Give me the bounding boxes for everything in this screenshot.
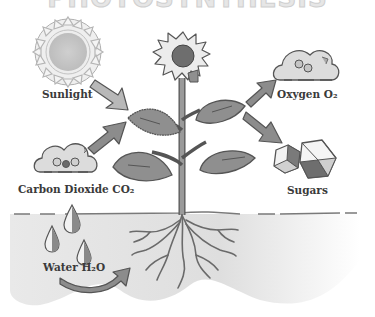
photosynthesis-diagram: PHOTOSYNTHESIS [0,0,375,317]
sugars-arrow-icon [243,112,282,143]
sunlight-label: Sunlight [42,88,93,100]
sunlight-arrow-icon [90,80,128,110]
water-label: Water H₂O [43,261,105,273]
leaf-lower-right [200,151,255,174]
oxygen-label: Oxygen O₂ [277,88,338,100]
oxygen-cloud-icon [273,51,338,80]
sunflower-icon [153,32,210,82]
leaf-upper-right [196,100,245,123]
leaf-upper-left [128,109,180,135]
sun-icon [33,17,103,87]
sugar-cubes-icon [274,140,336,178]
oxygen-arrow-icon [246,80,276,107]
soil [10,212,360,305]
plant-stem [152,78,206,215]
carbon-dioxide-label: Carbon Dioxide CO₂ [18,183,134,195]
sugars-label: Sugars [287,184,328,196]
carbon-dioxide-arrow-icon [88,122,126,154]
